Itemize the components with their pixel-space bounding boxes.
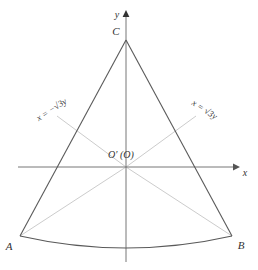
x-axis-label: x: [242, 167, 248, 178]
diagram-canvas: x y O′ (O) C A B x = −√3y x = √3y: [0, 0, 258, 270]
edge-c-to-b: [126, 40, 232, 236]
vertex-label-a: A: [5, 240, 13, 252]
y-axis-label: y: [114, 9, 120, 20]
left-line-equation-label: x = −√3y: [34, 96, 69, 123]
vertex-label-b: B: [238, 239, 245, 251]
y-axis-arrowhead: [123, 10, 130, 17]
vertex-label-c: C: [112, 25, 120, 37]
y-axis-group: [123, 10, 130, 262]
geometry-figure: x y O′ (O) C A B x = −√3y x = √3y: [0, 0, 258, 270]
ray-upper-right-line: [126, 116, 196, 167]
edge-a-to-c: [20, 40, 126, 236]
origin-label: O′ (O): [108, 149, 134, 161]
ray-to-vertex-a: [20, 167, 126, 236]
ray-to-vertex-b: [126, 167, 232, 236]
x-axis-arrowhead: [233, 164, 240, 171]
